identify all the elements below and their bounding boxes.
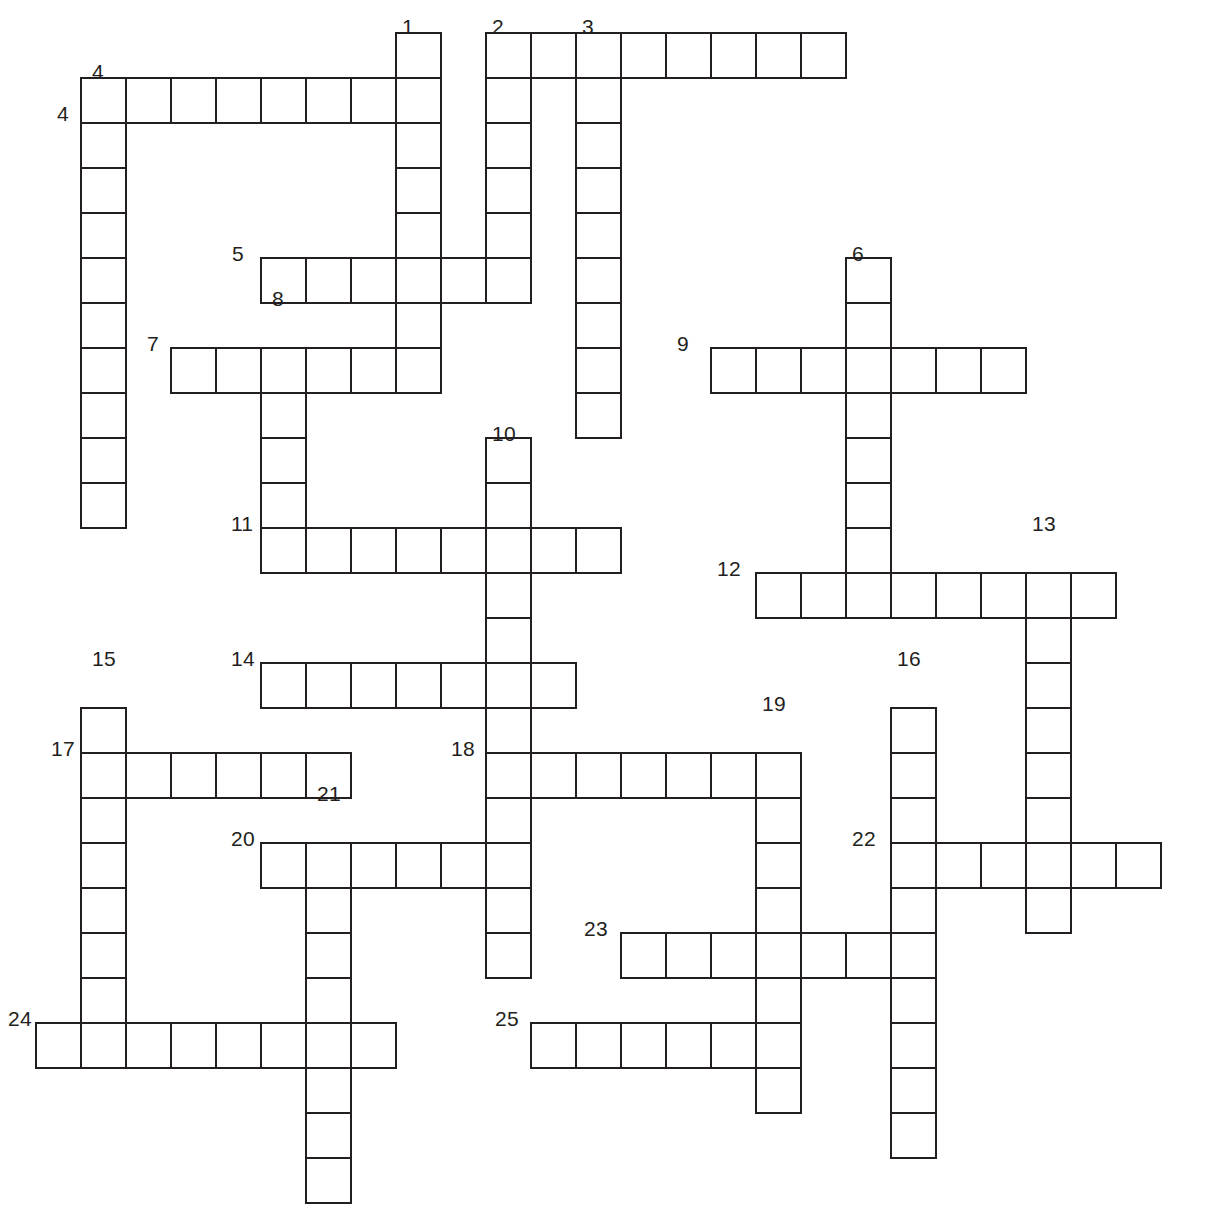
crossword-cell[interactable] <box>260 77 307 124</box>
crossword-cell[interactable] <box>620 932 667 979</box>
crossword-cell[interactable] <box>260 482 307 529</box>
crossword-cell[interactable] <box>485 842 532 889</box>
crossword-cell[interactable] <box>575 32 622 79</box>
crossword-cell[interactable] <box>845 302 892 349</box>
crossword-cell[interactable] <box>305 977 352 1024</box>
crossword-cell[interactable] <box>260 527 307 574</box>
crossword-cell[interactable] <box>530 662 577 709</box>
crossword-cell[interactable] <box>305 347 352 394</box>
crossword-cell[interactable] <box>575 347 622 394</box>
crossword-cell[interactable] <box>80 167 127 214</box>
crossword-cell[interactable] <box>665 1022 712 1069</box>
crossword-cell[interactable] <box>350 662 397 709</box>
crossword-cell[interactable] <box>890 1022 937 1069</box>
crossword-cell[interactable] <box>980 572 1027 619</box>
crossword-cell[interactable] <box>80 122 127 169</box>
crossword-cell[interactable] <box>485 257 532 304</box>
crossword-cell[interactable] <box>485 662 532 709</box>
crossword-cell[interactable] <box>620 1022 667 1069</box>
crossword-cell[interactable] <box>125 77 172 124</box>
crossword-cell[interactable] <box>305 1157 352 1204</box>
crossword-cell[interactable] <box>1025 572 1072 619</box>
crossword-cell[interactable] <box>350 257 397 304</box>
crossword-cell[interactable] <box>485 887 532 934</box>
crossword-cell[interactable] <box>305 662 352 709</box>
crossword-cell[interactable] <box>710 32 757 79</box>
crossword-cell[interactable] <box>710 1022 757 1069</box>
crossword-cell[interactable] <box>1025 887 1072 934</box>
crossword-cell[interactable] <box>395 257 442 304</box>
crossword-cell[interactable] <box>845 437 892 484</box>
crossword-cell[interactable] <box>890 797 937 844</box>
crossword-cell[interactable] <box>755 842 802 889</box>
crossword-cell[interactable] <box>80 482 127 529</box>
crossword-cell[interactable] <box>575 122 622 169</box>
crossword-cell[interactable] <box>80 392 127 439</box>
crossword-cell[interactable] <box>575 527 622 574</box>
crossword-cell[interactable] <box>890 1112 937 1159</box>
crossword-cell[interactable] <box>35 1022 82 1069</box>
crossword-cell[interactable] <box>440 257 487 304</box>
crossword-cell[interactable] <box>485 527 532 574</box>
crossword-cell[interactable] <box>530 1022 577 1069</box>
crossword-cell[interactable] <box>575 257 622 304</box>
crossword-cell[interactable] <box>80 77 127 124</box>
crossword-cell[interactable] <box>395 347 442 394</box>
crossword-cell[interactable] <box>755 1067 802 1114</box>
crossword-cell[interactable] <box>215 77 262 124</box>
crossword-cell[interactable] <box>395 77 442 124</box>
crossword-cell[interactable] <box>485 482 532 529</box>
crossword-cell[interactable] <box>845 932 892 979</box>
crossword-cell[interactable] <box>215 347 262 394</box>
crossword-cell[interactable] <box>710 932 757 979</box>
crossword-cell[interactable] <box>710 347 757 394</box>
crossword-cell[interactable] <box>755 797 802 844</box>
crossword-cell[interactable] <box>260 842 307 889</box>
crossword-cell[interactable] <box>170 77 217 124</box>
crossword-cell[interactable] <box>755 752 802 799</box>
crossword-cell[interactable] <box>305 1067 352 1114</box>
crossword-cell[interactable] <box>575 392 622 439</box>
crossword-cell[interactable] <box>80 752 127 799</box>
crossword-cell[interactable] <box>1070 842 1117 889</box>
crossword-cell[interactable] <box>575 1022 622 1069</box>
crossword-cell[interactable] <box>890 932 937 979</box>
crossword-cell[interactable] <box>170 752 217 799</box>
crossword-cell[interactable] <box>980 842 1027 889</box>
crossword-cell[interactable] <box>755 932 802 979</box>
crossword-cell[interactable] <box>935 347 982 394</box>
crossword-cell[interactable] <box>800 347 847 394</box>
crossword-cell[interactable] <box>440 527 487 574</box>
crossword-cell[interactable] <box>260 347 307 394</box>
crossword-cell[interactable] <box>215 1022 262 1069</box>
crossword-cell[interactable] <box>80 977 127 1024</box>
crossword-cell[interactable] <box>260 392 307 439</box>
crossword-cell[interactable] <box>1025 842 1072 889</box>
crossword-cell[interactable] <box>80 437 127 484</box>
crossword-cell[interactable] <box>575 752 622 799</box>
crossword-cell[interactable] <box>260 752 307 799</box>
crossword-cell[interactable] <box>305 842 352 889</box>
crossword-cell[interactable] <box>440 662 487 709</box>
crossword-cell[interactable] <box>80 1022 127 1069</box>
crossword-cell[interactable] <box>890 752 937 799</box>
crossword-cell[interactable] <box>305 887 352 934</box>
crossword-cell[interactable] <box>170 1022 217 1069</box>
crossword-cell[interactable] <box>665 32 712 79</box>
crossword-cell[interactable] <box>845 347 892 394</box>
crossword-cell[interactable] <box>485 212 532 259</box>
crossword-cell[interactable] <box>890 347 937 394</box>
crossword-cell[interactable] <box>1025 617 1072 664</box>
crossword-cell[interactable] <box>530 752 577 799</box>
crossword-cell[interactable] <box>1070 572 1117 619</box>
crossword-cell[interactable] <box>980 347 1027 394</box>
crossword-cell[interactable] <box>530 527 577 574</box>
crossword-cell[interactable] <box>890 977 937 1024</box>
crossword-cell[interactable] <box>395 527 442 574</box>
crossword-cell[interactable] <box>575 302 622 349</box>
crossword-cell[interactable] <box>350 347 397 394</box>
crossword-cell[interactable] <box>485 32 532 79</box>
crossword-cell[interactable] <box>395 212 442 259</box>
crossword-cell[interactable] <box>485 122 532 169</box>
crossword-cell[interactable] <box>935 572 982 619</box>
